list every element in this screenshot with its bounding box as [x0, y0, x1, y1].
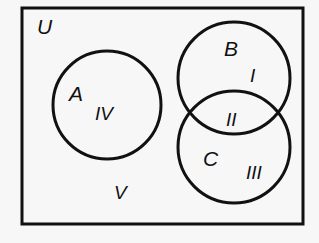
- region-v-label: V: [114, 182, 129, 203]
- region-i-label: I: [250, 65, 256, 86]
- set-c-circle: [178, 91, 290, 203]
- set-c-label: C: [203, 147, 219, 170]
- venn-diagram: U A IV B I II C III V: [0, 0, 319, 243]
- universe-rectangle: [22, 8, 303, 224]
- region-iii-label: III: [246, 162, 263, 183]
- universe-label: U: [37, 15, 53, 38]
- set-b-label: B: [224, 37, 238, 60]
- region-iv-label: IV: [95, 103, 115, 124]
- set-a-label: A: [67, 82, 83, 105]
- region-ii-label: II: [226, 109, 237, 130]
